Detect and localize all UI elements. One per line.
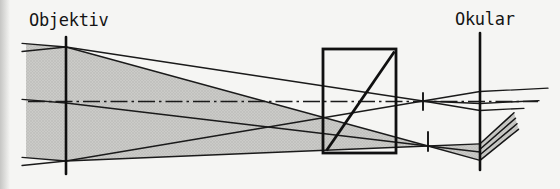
optics-ray-diagram: Objektiv Okular [0, 0, 560, 189]
shaded-beam-main [26, 44, 428, 161]
objective-label: Objektiv [29, 10, 108, 30]
exit-rays [480, 88, 548, 110]
eyepiece-label: Okular [455, 9, 515, 29]
